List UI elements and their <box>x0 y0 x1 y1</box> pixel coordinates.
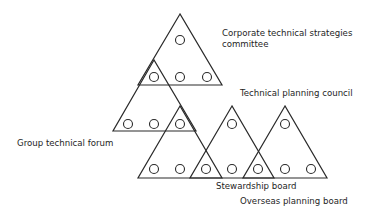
node-circle-icon <box>124 120 133 129</box>
node-circle-icon <box>228 120 237 129</box>
label-overseas-planning-board: Overseas planning board <box>240 196 348 206</box>
label-stewardship-board: Stewardship board <box>216 181 297 191</box>
label-corporate-technical-strategies: Corporate technical strategies <box>222 28 353 38</box>
node-circle-icon <box>150 73 159 82</box>
node-circle-icon <box>281 120 290 129</box>
node-circle-icon <box>202 165 211 174</box>
node-circle-icon <box>150 120 159 129</box>
node-circle-icon <box>203 73 212 82</box>
label-group-technical-forum: Group technical forum <box>17 138 113 148</box>
node-circle-icon <box>176 120 185 129</box>
label-committee: committee <box>222 39 268 49</box>
node-circle-icon <box>150 165 159 174</box>
organisation-diagram: Corporate technical strategies committee… <box>0 0 368 212</box>
node-circle-icon <box>281 165 290 174</box>
node-circle-icon <box>307 165 316 174</box>
label-technical-planning-council: Technical planning council <box>239 88 353 98</box>
node-circle-icon <box>254 165 263 174</box>
node-circle-icon <box>228 165 237 174</box>
node-circle-icon <box>176 73 185 82</box>
node-circle-icon <box>176 165 185 174</box>
node-circle-icon <box>176 36 185 45</box>
